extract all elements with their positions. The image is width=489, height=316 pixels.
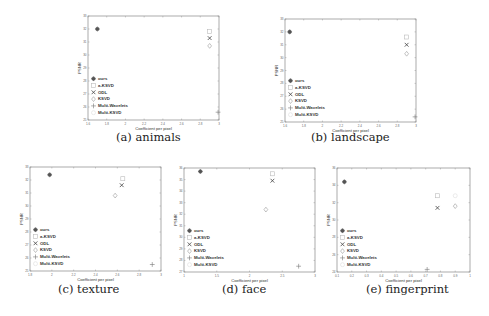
y-tick-label: 29 (25, 217, 29, 221)
legend-marker-multi-wavelets (33, 255, 38, 260)
y-tick-label: 24 (332, 270, 336, 274)
data-point-multi-ksvd (453, 194, 457, 198)
y-tick-label: 26 (280, 107, 284, 111)
y-tick-label: 30 (83, 53, 87, 57)
data-point-multi-wavelets (150, 262, 155, 267)
legend-marker-ours (288, 78, 293, 83)
legend: oursa-KSVDODLKSVDMulti-WaveletsMulti-KSV… (33, 227, 70, 266)
data-point-ksvd (453, 204, 457, 209)
y-tick-label: 25 (280, 120, 284, 124)
data-point-a-ksvd (405, 35, 409, 39)
legend-marker-multi-wavelets (288, 106, 293, 111)
legend-label: Multi-Wavelets (40, 254, 71, 259)
y-axis-label: PSNR (173, 214, 178, 226)
legend-label: ours (194, 228, 204, 233)
data-point-a-ksvd (270, 172, 274, 176)
legend-label: ours (347, 228, 357, 233)
legend: oursa-KSVDODLKSVDMulti-WaveletsMulti-KSV… (288, 78, 325, 117)
y-tick-label: 30 (179, 235, 183, 239)
y-tick-label: 25 (83, 118, 87, 122)
data-point-odl (436, 206, 440, 210)
legend-label: Multi-Wavelets (347, 255, 378, 260)
legend-marker-ours (340, 228, 345, 233)
y-tick-label: 28 (332, 235, 336, 239)
y-tick-label: 27 (83, 92, 87, 96)
y-tick-label: 35 (179, 178, 183, 182)
x-tick-label: 2.2 (72, 273, 77, 277)
legend-marker-odl (34, 241, 38, 245)
legend-marker-a-ksvd (341, 236, 345, 240)
data-point-ksvd (208, 44, 212, 49)
legend-label: Multi-KSVD (295, 112, 318, 117)
legend-label: KSVD (194, 248, 206, 253)
x-tick-label: 2.8 (137, 273, 142, 277)
legend-marker-odl (92, 90, 96, 94)
legend-marker-multi-wavelets (91, 104, 96, 109)
data-point-ours (95, 27, 100, 32)
x-tick-label: 3 (160, 273, 162, 277)
legend-label: KSVD (347, 248, 359, 253)
y-tick-label: 30 (280, 56, 284, 60)
legend-marker-a-ksvd (188, 236, 192, 240)
data-point-odl (405, 43, 409, 47)
legend-label: ODL (98, 90, 107, 95)
x-tick-label: 0.4 (379, 274, 384, 278)
x-tick-label: 0.3 (364, 274, 369, 278)
y-tick-label: 29 (83, 66, 87, 70)
legend-label: ODL (295, 92, 304, 97)
legend-marker-multi-ksvd (92, 111, 96, 115)
legend-label: KSVD (295, 98, 307, 103)
legend-label: a-KSVD (98, 83, 114, 88)
data-point-multi-wavelets (296, 264, 301, 269)
legend: oursa-KSVDODLKSVDMulti-WaveletsMulti-KSV… (340, 228, 377, 267)
x-tick-label: 2.4 (93, 273, 98, 277)
x-tick-label: 1.8 (302, 124, 307, 128)
legend-label: Multi-KSVD (347, 262, 370, 267)
y-tick-label: 27 (179, 270, 183, 274)
x-tick-label: 2.5 (280, 274, 285, 278)
y-tick-label: 26 (332, 253, 336, 257)
x-tick-label: 2.6 (115, 273, 120, 277)
data-point-a-ksvd (121, 177, 125, 181)
y-tick-label: 32 (179, 212, 183, 216)
data-point-multi-wavelets (425, 267, 430, 272)
x-tick-label: 2.8 (395, 124, 400, 128)
y-tick-label: 32 (83, 27, 87, 31)
y-tick-label: 30 (25, 204, 29, 208)
legend-label: Multi-Wavelets (194, 255, 225, 260)
legend-marker-ksvd (34, 248, 38, 253)
legend-label: ODL (40, 241, 49, 246)
legend-marker-odl (188, 242, 192, 246)
data-point-a-ksvd (208, 30, 212, 34)
legend-marker-ours (91, 76, 96, 81)
y-tick-label: 31 (83, 40, 87, 44)
y-tick-label: 32 (332, 201, 336, 205)
x-tick-label: 0.5 (394, 274, 399, 278)
data-point-odl (271, 179, 275, 183)
y-tick-label: 33 (83, 14, 87, 18)
legend-label: KSVD (98, 96, 110, 101)
legend-label: ODL (347, 242, 356, 247)
figure-svg: 1.61.822.22.42.62.83252627282930313233Co… (0, 0, 489, 316)
legend: oursa-KSVDODLKSVDMulti-WaveletsMulti-KSV… (91, 76, 128, 115)
x-tick-label: 1 (469, 274, 471, 278)
panel-3: 11.522.5327282930313233343536Coefficient… (173, 166, 316, 283)
y-tick-label: 29 (280, 69, 284, 73)
y-tick-label: 28 (83, 79, 87, 83)
y-tick-label: 33 (179, 201, 183, 205)
x-tick-label: 2 (322, 124, 324, 128)
y-tick-label: 36 (179, 166, 183, 170)
legend-marker-a-ksvd (92, 84, 96, 88)
data-point-ksvd (113, 193, 117, 198)
panel-1: 1.61.822.22.42.62.83252627282930313233Co… (274, 17, 417, 133)
y-tick-label: 25 (25, 269, 29, 273)
y-tick-label: 27 (280, 94, 284, 98)
legend-marker-ksvd (92, 97, 96, 102)
y-tick-label: 30 (332, 218, 336, 222)
y-tick-label: 28 (280, 81, 284, 85)
legend-label: ours (98, 76, 108, 81)
data-point-ksvd (264, 207, 268, 212)
x-tick-label: 1.6 (283, 124, 288, 128)
x-tick-label: 2.6 (179, 122, 184, 126)
panel-0: 1.61.822.22.42.62.83252627282930313233Co… (77, 14, 220, 131)
